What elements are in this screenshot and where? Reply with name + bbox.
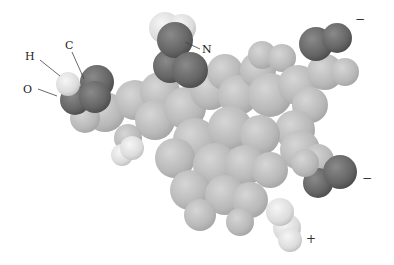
leader-h (40, 60, 60, 76)
carboxylate-top-right (299, 23, 352, 61)
charge-plus-bottom: + (306, 232, 316, 246)
label-n: N (202, 43, 212, 56)
charge-minus-right: − (362, 171, 372, 185)
ammonium-group-bottom (266, 198, 302, 252)
carboxyl-group-left (56, 65, 114, 115)
label-c: C (65, 39, 73, 52)
molecule-figure: H C O N − − + (0, 0, 394, 265)
label-o: O (23, 83, 32, 96)
label-h: H (25, 50, 35, 63)
charge-minus-top-right: − (355, 12, 365, 26)
amino-group-top (149, 12, 208, 88)
protein-body (70, 41, 359, 236)
leader-o (38, 89, 57, 96)
